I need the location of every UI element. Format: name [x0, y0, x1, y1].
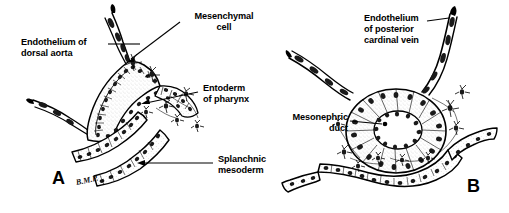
- label-line: of pharynx: [203, 94, 249, 104]
- leader-endothelium-posterior-cardinal-vein: [427, 18, 449, 21]
- leader-mesenchymal-cell: [127, 22, 180, 62]
- label-line: dorsal aorta: [21, 48, 72, 58]
- label-line: duct: [329, 123, 348, 133]
- label-line: Endothelium of: [21, 37, 86, 47]
- label-entoderm-of-pharynx: Entodermof pharynx: [203, 83, 249, 105]
- label-line: mesoderm: [218, 165, 264, 175]
- label-line: of posterior: [364, 24, 414, 34]
- splanchnic-mesoderm-left-limb: [282, 172, 320, 192]
- label-endothelium-dorsal-aorta: Endothelium ofdorsal aorta: [21, 37, 86, 59]
- label-line: Entoderm: [203, 83, 245, 93]
- label-line: cell: [217, 22, 232, 32]
- label-line: Splanchnic: [218, 154, 266, 164]
- label-line: cardinal vein: [364, 35, 419, 45]
- panel-letter-a: A: [52, 168, 65, 189]
- label-line: Mesenchymal: [194, 11, 253, 21]
- label-line: Endothelium: [364, 13, 419, 23]
- splanchnic-mesoderm-right-limb: [448, 128, 497, 160]
- label-mesenchymal-cell: Mesenchymalcell: [183, 11, 265, 33]
- dorsal-aorta-endothelium-strand: [105, 4, 130, 64]
- figure-container: Endothelium ofdorsal aorta Mesenchymalce…: [0, 0, 509, 213]
- label-line: Mesonephric: [292, 112, 348, 122]
- label-splanchnic-mesoderm: Splanchnicmesoderm: [218, 154, 266, 176]
- label-mesonephric-duct: Mesonephricduct: [272, 112, 348, 134]
- entoderm-right-extension: [155, 86, 198, 117]
- lateral-endothelium-strand: [26, 99, 90, 137]
- panel-a-drawing: [26, 4, 204, 186]
- label-endothelium-posterior-cardinal-vein: Endotheliumof posteriorcardinal vein: [364, 13, 419, 46]
- panel-letter-b: B: [467, 176, 480, 197]
